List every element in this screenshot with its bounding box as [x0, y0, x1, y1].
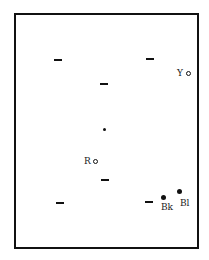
- filled-circle-bl-icon: [177, 189, 182, 194]
- diagram-frame: [14, 13, 199, 249]
- dash-marker: [100, 83, 108, 85]
- point-label-bl: Bl: [180, 199, 190, 208]
- open-circle-r-icon: [93, 159, 98, 164]
- dash-marker: [145, 201, 153, 203]
- small-dot-marker: [103, 128, 106, 131]
- filled-circle-bk-icon: [161, 195, 166, 200]
- point-label-y: Y: [177, 69, 183, 78]
- dash-marker: [101, 179, 109, 181]
- open-circle-y-icon: [186, 71, 191, 76]
- point-label-bk: Bk: [161, 203, 173, 212]
- point-label-r: R: [84, 157, 91, 166]
- dash-marker: [146, 58, 154, 60]
- dash-marker: [56, 202, 64, 204]
- dash-marker: [54, 59, 62, 61]
